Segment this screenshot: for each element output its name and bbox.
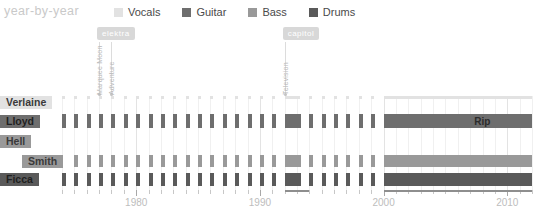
row-label-verlaine[interactable]: Verlaine xyxy=(0,96,52,109)
year-tick xyxy=(334,173,338,186)
year-tick xyxy=(87,114,91,128)
year-tick xyxy=(248,96,251,99)
record-label-badge[interactable]: capitol xyxy=(283,27,320,40)
rip-label: Rip xyxy=(474,115,490,128)
year-tick xyxy=(173,173,177,186)
row-label-ficca[interactable]: Ficca xyxy=(0,173,39,186)
year-tick xyxy=(272,173,276,186)
year-ticks xyxy=(62,96,532,99)
year-tick xyxy=(99,114,103,128)
axis-highlight-segment xyxy=(384,190,532,192)
year-tick xyxy=(186,173,190,186)
year-tick xyxy=(346,155,350,167)
timeline-row: Ficca xyxy=(0,173,560,186)
legend-item-bass[interactable]: Bass xyxy=(248,6,286,18)
year-tick xyxy=(99,96,102,99)
year-tick xyxy=(74,96,77,99)
legend-label: Drums xyxy=(323,6,355,18)
axis-tick xyxy=(272,190,273,194)
year-tick xyxy=(223,155,227,167)
year-tick xyxy=(149,173,153,186)
legend-swatch-drums xyxy=(309,8,318,17)
axis-tick-label: 2010 xyxy=(496,197,518,208)
year-tick xyxy=(87,155,91,167)
axis-tick xyxy=(186,190,187,194)
axis-tick xyxy=(359,190,360,194)
year-tick xyxy=(198,173,202,186)
year-tick xyxy=(322,173,326,186)
record-label-badge[interactable]: elektra xyxy=(97,27,135,40)
row-label-smith[interactable]: Smith xyxy=(22,155,63,168)
year-tick xyxy=(248,114,252,128)
year-tick xyxy=(322,96,325,99)
year-tick xyxy=(260,173,264,186)
year-tick xyxy=(346,173,350,186)
timeline-row: LloydRip xyxy=(0,114,560,128)
axis-tick xyxy=(161,190,162,194)
axis-tick xyxy=(87,190,88,194)
year-tick xyxy=(124,173,128,186)
axis-tick-label: 1990 xyxy=(249,197,271,208)
year-tick xyxy=(235,114,239,128)
chart-canvas: year-by-year VocalsGuitarBassDrums 19801… xyxy=(0,0,560,213)
active-period-bar xyxy=(384,155,532,167)
year-tick xyxy=(248,155,252,167)
legend-label: Bass xyxy=(262,6,286,18)
year-ticks xyxy=(62,173,532,186)
row-label-hell[interactable]: Hell xyxy=(0,135,31,148)
legend-item-drums[interactable]: Drums xyxy=(309,6,355,18)
axis-tick xyxy=(124,190,125,194)
legend-item-vocals[interactable]: Vocals xyxy=(114,6,160,18)
year-tick xyxy=(161,173,165,186)
active-period-bar xyxy=(285,155,297,167)
x-axis: 1980199020002010 xyxy=(62,190,532,213)
year-tick xyxy=(161,114,165,128)
year-tick xyxy=(124,96,127,99)
year-tick xyxy=(309,96,312,99)
year-tick xyxy=(198,114,202,128)
year-tick xyxy=(223,114,227,128)
year-tick xyxy=(223,173,227,186)
legend-swatch-vocals xyxy=(114,8,123,17)
year-ticks xyxy=(62,114,532,128)
year-tick xyxy=(359,114,363,128)
axis-tick xyxy=(322,190,323,194)
axis-tick xyxy=(111,190,112,194)
active-period-bar xyxy=(285,96,297,99)
year-tick xyxy=(124,155,128,167)
year-tick xyxy=(297,96,300,99)
active-period-bar xyxy=(384,114,532,128)
year-tick xyxy=(371,114,375,128)
year-tick xyxy=(74,155,78,167)
axis-tick xyxy=(260,190,261,196)
active-period-bar xyxy=(285,114,297,128)
row-label-lloyd[interactable]: Lloyd xyxy=(0,115,40,128)
year-tick xyxy=(210,96,213,99)
year-tick xyxy=(62,96,65,99)
year-tick xyxy=(297,114,301,128)
legend-label: Guitar xyxy=(196,6,226,18)
album-title-label: Adventure xyxy=(108,61,115,95)
year-tick xyxy=(99,155,103,167)
year-tick xyxy=(186,155,190,167)
album-title-label: Television xyxy=(282,62,289,95)
legend-label: Vocals xyxy=(128,6,160,18)
year-tick xyxy=(346,114,350,128)
active-period-bar xyxy=(384,96,532,99)
axis-tick xyxy=(334,190,335,194)
year-tick xyxy=(111,114,115,128)
year-tick xyxy=(210,114,214,128)
year-tick xyxy=(359,96,362,99)
axis-tick xyxy=(173,190,174,194)
year-tick xyxy=(99,173,103,186)
axis-tick xyxy=(210,190,211,194)
legend-item-guitar[interactable]: Guitar xyxy=(182,6,226,18)
year-tick xyxy=(297,155,301,167)
timeline-row: Hell xyxy=(0,135,560,147)
axis-tick xyxy=(235,190,236,194)
year-tick xyxy=(359,173,363,186)
year-tick xyxy=(210,155,214,167)
year-tick xyxy=(136,155,140,167)
year-tick xyxy=(161,155,165,167)
album-title-label: Marquee Moon xyxy=(96,46,103,95)
